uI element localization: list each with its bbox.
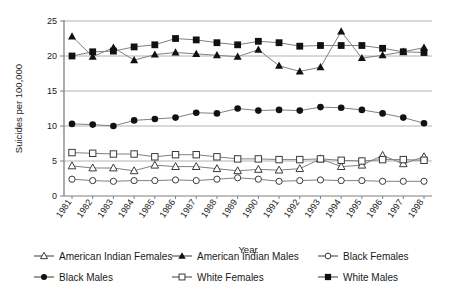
series-marker [316,63,324,70]
series-marker [296,43,303,50]
series-line [72,107,424,126]
series-marker [69,53,76,60]
y-tick-label: 25 [47,16,57,26]
series-marker [193,109,200,116]
legend-marker-sample [325,274,331,280]
series-marker [151,41,158,48]
series-marker [234,156,240,162]
series-marker [338,178,344,184]
series-marker [421,49,428,56]
series-marker [359,178,365,184]
series-marker [234,105,241,112]
series-marker [317,104,324,111]
series-marker [69,121,76,128]
series-marker [296,107,303,114]
series-marker [69,149,75,155]
series-marker [421,120,428,127]
series-marker [90,178,96,184]
series-marker [317,156,323,162]
series-marker [276,178,282,184]
series-marker [68,162,76,169]
series-marker [172,48,180,55]
series-marker [89,48,96,55]
series-marker [131,44,138,51]
series-marker [317,42,324,49]
legend-label: American Indian Females [59,251,172,262]
series-marker [110,123,117,130]
series-marker [152,154,158,160]
series-marker [131,117,138,124]
series-marker [276,156,282,162]
series-marker [317,177,323,183]
series-marker [400,156,406,162]
series-marker [131,178,137,184]
series-line [72,32,424,72]
x-tick-label: 1995 [344,197,364,219]
series-marker [110,151,116,157]
series-marker [193,178,199,184]
y-tick-label: 20 [47,51,57,61]
x-tick-label: 1990 [240,197,260,219]
x-tick-label: 1994 [323,197,343,219]
series-marker [131,151,137,157]
series-marker [275,62,283,69]
series-marker [338,105,345,112]
series-marker [254,46,262,53]
series-marker [192,163,200,170]
series-marker [193,152,199,158]
series-marker [214,176,220,182]
series-marker [400,114,407,121]
series-marker [255,107,262,114]
series-line [72,153,424,161]
legend-label: White Females [197,272,264,283]
legend-marker-sample [178,252,185,259]
legend-label: White Males [343,272,398,283]
series-marker [151,161,159,168]
series-marker [338,42,345,49]
series-marker [421,157,427,163]
series-marker [110,178,116,184]
legend-marker-sample [41,252,48,258]
legend-marker-sample [325,253,331,259]
series-marker [172,114,179,121]
series-marker [359,158,365,164]
series-marker [297,156,303,162]
series-marker [214,154,220,160]
x-tick-label: 1988 [199,197,219,219]
series-marker [172,177,178,183]
series-marker [110,164,118,171]
series-marker [172,35,179,42]
series-marker [69,176,75,182]
series-marker [68,32,76,39]
series-marker [152,178,158,184]
legend-label: American Indian Males [197,251,299,262]
series-marker [337,27,345,34]
series-marker [235,175,241,181]
x-tick-label: 1998 [406,197,426,219]
x-tick-label: 1997 [385,197,405,219]
x-tick-label: 1984 [116,197,136,219]
series-marker [234,41,241,48]
legend-marker-sample [41,274,47,280]
series-marker [379,45,386,52]
series-marker [338,157,344,163]
series-marker [297,178,303,184]
series-marker [379,178,385,184]
series-marker [276,39,283,46]
series-marker [89,121,96,128]
series-marker [255,38,262,45]
legend-label: Black Females [343,251,409,262]
y-tick-label: 5 [52,156,57,166]
series-marker [400,178,406,184]
x-tick-label: 1983 [95,197,115,219]
series-marker [90,150,96,156]
x-tick-label: 1993 [302,197,322,219]
x-tick-label: 1985 [137,197,157,219]
series-marker [358,42,365,49]
legend-label: Black Males [59,272,113,283]
series-marker [172,152,178,158]
x-tick-label: 1989 [220,197,240,219]
series-line [72,178,424,182]
x-tick-label: 1992 [282,197,302,219]
x-tick-label: 1986 [157,197,177,219]
